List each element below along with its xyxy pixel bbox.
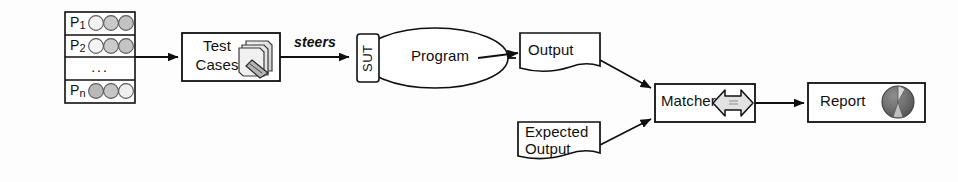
- edge-expected-to-matcher: [600, 119, 651, 145]
- test-vector-label: Test Vector: [0, 32, 58, 103]
- diagram-vector-layer: [0, 0, 958, 182]
- node-program-label: Program: [385, 48, 495, 65]
- edge-output-to-matcher: [600, 60, 651, 88]
- node-test-cases-label-line2: Cases: [182, 57, 252, 74]
- node-expected-output-label-line2: Output: [525, 141, 571, 158]
- node-expected-output-label-line1: Expected: [525, 124, 588, 141]
- row-subscript-2: 2: [79, 42, 85, 54]
- node-sut-label: SUT: [361, 34, 376, 82]
- test-vector-row-label-1: P1: [70, 15, 86, 31]
- pie-chart-icon: [882, 86, 914, 118]
- test-vector-ellipsis: ...: [65, 60, 135, 76]
- test-vector-row-label-n: Pn: [70, 83, 86, 99]
- node-output-label: Output: [528, 42, 574, 59]
- row-subscript-1: 1: [79, 19, 85, 31]
- node-test-cases-label-line1: Test: [186, 38, 248, 55]
- test-vector-row-label-2: P2: [70, 38, 86, 54]
- row-subscript-n: n: [79, 87, 85, 99]
- edge-label-steers: steers: [294, 35, 336, 51]
- diagram-canvas: Test Vector P1 P2 ... Pn Test Cases stee…: [0, 0, 958, 182]
- node-matcher-label: Matcher: [661, 93, 716, 110]
- node-report-label: Report: [820, 93, 866, 110]
